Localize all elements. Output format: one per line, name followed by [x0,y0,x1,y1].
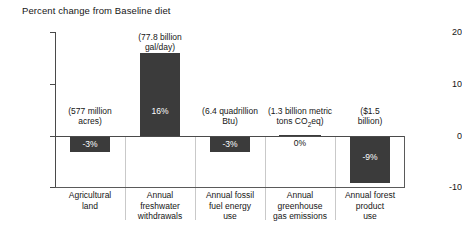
x-label-line3: withdrawals [120,211,200,222]
plot-right-border [404,136,405,188]
bar-annotation-line1: (1.3 billion metric [268,106,332,116]
zero-baseline [55,136,405,137]
bar-annotation-line2: acres) [78,116,102,126]
chart-title: Percent change from Baseline diet [22,5,171,16]
bar-freshwater-withdrawals[interactable] [140,53,180,136]
x-label-line1: Annual [260,190,340,201]
bar-annotation-line2: billion) [358,116,383,126]
x-label-line1: Annual [120,190,200,201]
bar-group-forest-product: ($1.5 billion) -9% [335,32,405,188]
plot-area: (577 million acres) -3% (77.8 billion ga… [55,32,405,188]
bar-group-greenhouse-gas: (1.3 billion metric tons CO2eq) 0% [265,32,335,188]
plot-bottom-border [55,187,405,188]
x-label-line2: greenhouse [260,201,340,212]
bar-value-forest-product: -9% [362,152,377,162]
x-axis-labels: Agricultural land Annual freshwater with… [55,190,405,234]
bar-annotation-line1: ($1.5 [360,106,379,116]
bar-value-agricultural-land: -3% [82,139,97,149]
bar-value-fossil-fuel-energy: -3% [222,139,237,149]
bar-annotation-line1: (577 million [68,106,111,116]
x-label-line3: use [330,211,410,222]
x-label-line3: use [190,211,270,222]
x-label-line1: Annual forest [330,190,410,201]
bar-group-fossil-fuel-energy: (6.4 quadrillion Btu) -3% [195,32,265,188]
y-tick-label-20: 20 [414,27,462,37]
x-label-line1: Agricultural [50,190,130,201]
x-label-line2: land [50,201,130,212]
x-label-line2: fuel energy [190,201,270,212]
bar-annotation-line2: tons CO2eq) [276,116,323,130]
x-label-freshwater-withdrawals: Annual freshwater withdrawals [120,190,200,222]
bar-value-freshwater-withdrawals: 16% [151,106,168,116]
y-tick-label-0: 0 [414,131,462,141]
bar-chart-figure: Percent change from Baseline diet 20 10 … [0,0,462,236]
x-label-fossil-fuel-energy: Annual fossil fuel energy use [190,190,270,222]
x-label-line2: product [330,201,410,212]
x-label-greenhouse-gas: Annual greenhouse gas emissions [260,190,340,222]
bar-group-freshwater-withdrawals: (77.8 billion gal/day) 16% [125,32,195,188]
x-label-forest-product: Annual forest product use [330,190,410,222]
bar-group-agricultural-land: (577 million acres) -3% [55,32,125,188]
x-label-agricultural-land: Agricultural land [50,190,130,211]
bar-annotation-line1: (6.4 quadrillion [202,106,258,116]
bar-annotation-line3-text: eq) [311,116,323,126]
bar-annotation-line2-text: tons CO [276,116,307,126]
x-label-line3: gas emissions [260,211,340,222]
y-tick-label-minus10: -10 [414,182,462,192]
bar-annotation-line2: gal/day) [145,42,175,52]
x-label-line1: Annual fossil [190,190,270,201]
x-label-line2: freshwater [120,201,200,212]
bar-annotation-line1: (77.8 billion [138,32,181,42]
bar-annotation-line2: Btu) [222,116,238,126]
bar-value-greenhouse-gas: 0% [294,138,306,148]
y-tick-label-10: 10 [414,79,462,89]
